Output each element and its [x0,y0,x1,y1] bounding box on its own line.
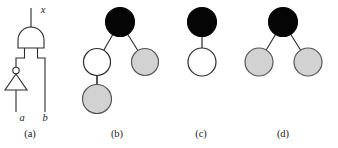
tree-c-node-root [188,8,217,37]
figure-canvas [0,0,338,148]
nand-gate-icon [18,27,44,48]
tree-b-node-right-child [132,49,159,76]
signal-label-b: b [35,112,55,123]
panel-b-tree [83,8,159,114]
signal-label-x: x [33,4,53,15]
panel-a-circuit [5,8,45,112]
caption-panel-d: (d) [263,128,303,139]
panel-d-tree [245,8,322,77]
tree-d-node-root [269,8,298,37]
panel-c-tree [188,8,217,77]
caption-panel-b: (b) [97,128,137,139]
inverter-bubble-icon [13,67,19,73]
tree-b-node-left-child [84,49,111,76]
wire-nand-to-inverter [16,53,25,67]
tree-b-node-root [106,8,135,37]
tree-d-node-left-child [245,48,273,76]
inverter-triangle-icon [5,74,27,90]
tree-b-node-left-grandchild [83,85,112,114]
tree-d-node-right-child [294,48,322,76]
signal-label-a: a [12,112,32,123]
caption-panel-c: (c) [181,128,221,139]
figure-container: x a b (a) (b) (c) (d) [0,0,338,148]
tree-c-node-child [188,48,216,76]
wire-nand-to-b [38,53,46,112]
caption-panel-a: (a) [10,128,50,139]
